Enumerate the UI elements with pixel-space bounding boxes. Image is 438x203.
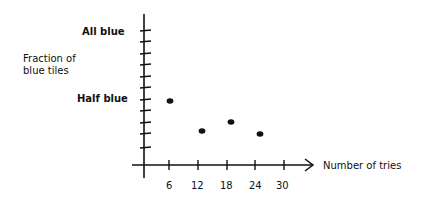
data-points <box>167 98 264 137</box>
data-point <box>199 128 206 134</box>
y-axis-title: Fraction of blue tiles <box>23 53 76 77</box>
x-tick-label: 30 <box>276 180 289 192</box>
x-tick-label: 12 <box>191 180 204 192</box>
x-tick-label: 24 <box>249 180 262 192</box>
y-tick-label-all-blue: All blue <box>82 26 125 38</box>
x-tick-label: 18 <box>220 180 233 192</box>
y-ticks <box>140 30 151 148</box>
x-axis-title: Number of tries <box>323 160 401 172</box>
data-point <box>257 131 264 137</box>
y-axis-title-line1: Fraction of <box>23 53 76 65</box>
y-axis-title-line2: blue tiles <box>23 65 76 77</box>
scatter-chart <box>0 0 438 203</box>
data-point <box>167 98 174 104</box>
y-tick-label-half-blue: Half blue <box>77 93 128 105</box>
x-tick-label: 6 <box>166 180 172 192</box>
data-point <box>228 119 235 125</box>
